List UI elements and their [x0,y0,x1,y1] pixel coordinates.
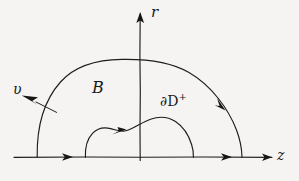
axis-label-r: r [151,5,158,20]
figure-canvas: .ink { fill: none; stroke: #1f1d1c; stro… [0,0,299,181]
normal-vector-label: υ [13,82,22,96]
normal-vector-arrowhead [22,96,38,105]
normal-vector-arrow [22,96,57,113]
axis-label-z: z [277,148,284,162]
region-label-B: B [92,80,104,96]
boundary-label-main: ∂D [160,93,178,109]
inner-boundary [85,117,193,157]
boundary-label: ∂D+ [160,92,187,108]
axis-vertical [136,12,144,161]
axis-horizontal [14,153,272,161]
boundary-label-superscript: + [178,91,186,102]
diagram-svg: .ink { fill: none; stroke: #1f1d1c; stro… [0,0,299,181]
